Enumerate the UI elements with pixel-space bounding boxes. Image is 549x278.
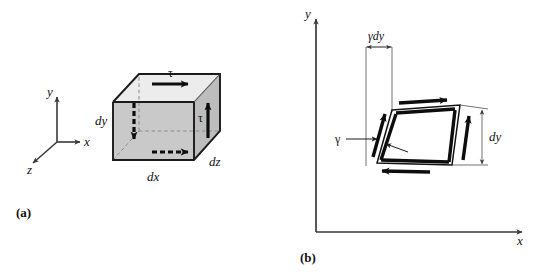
z-axis-label-a: z [26,162,32,177]
x-axis-label-b: x [516,233,523,248]
gamma-callout: γ [334,132,408,152]
gamma-leader-arrow-2 [386,144,408,152]
gamma-dy-label: γdy [368,29,385,43]
sheared-element [373,100,469,172]
z-axis-a [33,142,57,163]
panel-b-tag: (b) [300,250,316,265]
y-axis-label-b: y [303,6,311,21]
dx-label-a: dx [147,169,160,184]
shear-arrow-top [399,100,447,103]
dy-extension-top [460,105,488,109]
panel-b: y x γdy [300,6,523,265]
panel-a-tag: (a) [16,205,31,220]
shear-arrow-right [463,116,469,160]
gamma-dy-dimension: γdy [366,29,392,166]
coordinate-axes-b: y x [303,6,523,248]
shear-arrow-bottom [382,171,430,172]
gamma-label: γ [334,132,341,146]
figure-canvas: y x z [0,0,549,278]
coordinate-axes-a: y x z [26,84,90,177]
y-axis-label-a: y [45,84,53,99]
dy-label-a: dy [95,113,108,128]
tau-label-top: τ [168,66,173,80]
technical-figure: y x z [0,0,549,278]
tau-label-right: τ [198,111,203,125]
panel-a: y x z [16,66,221,220]
dy-label-b: dy [489,129,502,144]
x-axis-label-a: x [83,134,90,149]
dz-label-a: dz [209,154,221,169]
shear-bar-bottom-inner [381,160,449,162]
cube-element [113,74,220,160]
